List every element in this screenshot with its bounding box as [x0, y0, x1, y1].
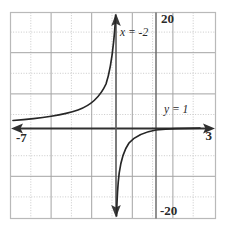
- y-max-label: 20: [161, 11, 174, 26]
- vertical-asymptote-label: x = -2: [119, 26, 148, 38]
- x-max-label: 3: [206, 128, 213, 143]
- graph-canvas: -7 3 20 -20 x = -2 y = 1: [0, 0, 228, 237]
- x-min-label: -7: [16, 130, 27, 145]
- horizontal-asymptote-label: y = 1: [163, 103, 188, 116]
- y-min-label: -20: [160, 203, 177, 218]
- rational-function-graph: -7 3 20 -20 x = -2 y = 1: [0, 0, 228, 237]
